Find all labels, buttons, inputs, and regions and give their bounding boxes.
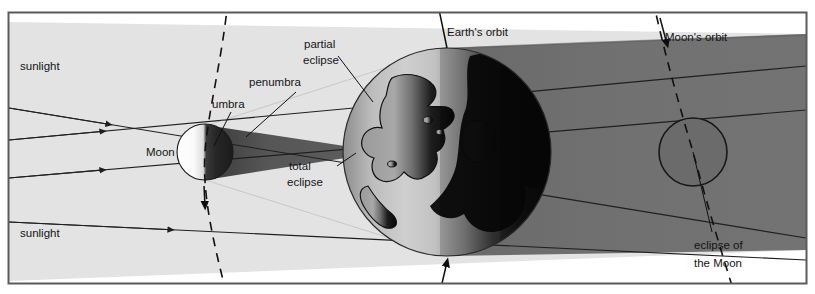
label-total-eclipse-line2: eclipse [287,176,323,188]
label-sunlight-top: sunlight [20,60,60,72]
eclipse-diagram-canvas: sunlight sunlight Moon umbra penumbra pa… [0,0,815,294]
label-penumbra: penumbra [249,76,301,88]
label-earths-orbit: Earth's orbit [447,26,509,38]
label-eclipse-of-moon-line2: the Moon [694,257,742,269]
moons-orbit-arrow-left [204,186,205,206]
eclipse-diagram-figure: sunlight sunlight Moon umbra penumbra pa… [0,0,815,294]
label-eclipse-of-moon-line1: eclipse of [694,239,743,251]
label-partial-eclipse-line2: eclipse [303,54,339,66]
label-umbra: umbra [212,98,245,110]
label-partial-eclipse-line1: partial [304,38,335,50]
label-total-eclipse-line1: total [289,160,311,172]
diagram-content [9,0,807,292]
label-moon: Moon [146,146,175,158]
moon-left-sphere [177,124,233,180]
label-moons-orbit: Moon's orbit [665,31,728,43]
label-sunlight-bottom: sunlight [20,227,60,239]
